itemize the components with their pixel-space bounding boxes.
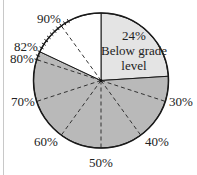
inner-label-line3: level — [121, 58, 147, 73]
pie-chart: 24% Below grade level 30% 40% 50% 60% 70… — [0, 0, 197, 175]
edge-label-90: 90% — [37, 11, 61, 26]
inner-label-percent: 24% — [122, 28, 146, 43]
edge-label-70: 70% — [11, 94, 35, 109]
edge-label-50: 50% — [89, 155, 113, 170]
edge-label-82: 82% — [14, 39, 38, 54]
edge-label-40: 40% — [145, 134, 169, 149]
edge-label-60: 60% — [34, 134, 58, 149]
inner-label-line2: Below grade — [101, 43, 167, 58]
center-dot — [99, 79, 102, 82]
edge-label-30: 30% — [169, 94, 193, 109]
